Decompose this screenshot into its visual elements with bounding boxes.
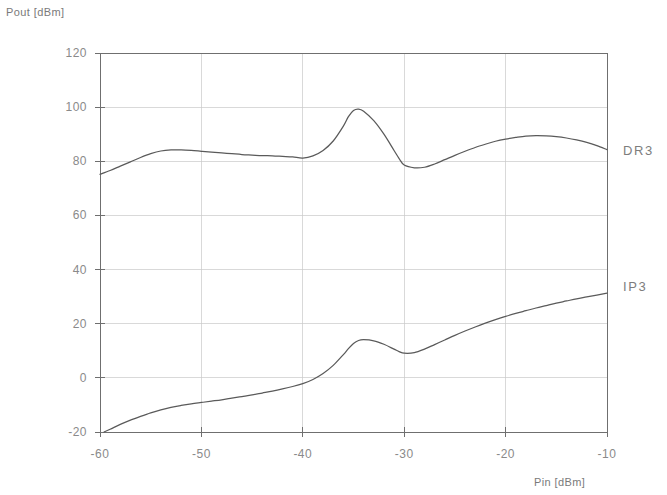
- tick-marks: [95, 53, 607, 437]
- x-axis-title: Pin [dBm]: [534, 476, 585, 488]
- series-labels: DR3IP3: [623, 143, 654, 293]
- y-tick-label: 100: [65, 100, 87, 114]
- x-tick-label: -10: [598, 447, 617, 461]
- y-tick-label: 60: [73, 208, 87, 222]
- y-tick-label: 80: [73, 154, 87, 168]
- x-tick-label: -20: [496, 447, 515, 461]
- y-tick-label: -20: [68, 425, 87, 439]
- series-label-ip3: IP3: [623, 279, 647, 294]
- x-tick-label: -60: [91, 447, 110, 461]
- x-tick-label: -50: [192, 447, 211, 461]
- x-tick-label: -40: [293, 447, 312, 461]
- x-axis-tick-labels: -60-50-40-30-20-10: [91, 447, 617, 461]
- y-tick-label: 40: [73, 263, 87, 277]
- series-label-dr3: DR3: [623, 143, 654, 158]
- x-tick-label: -30: [395, 447, 414, 461]
- data-series: [100, 109, 607, 432]
- series-curve-ip3: [104, 293, 607, 432]
- y-axis-title: Pout [dBm]: [6, 6, 64, 18]
- y-axis-tick-labels: -20020406080100120: [65, 46, 87, 439]
- y-tick-label: 20: [73, 317, 87, 331]
- chart-root: -20020406080100120 -60-50-40-30-20-10 DR…: [0, 0, 667, 495]
- y-tick-label: 0: [80, 371, 87, 385]
- series-curve-dr3: [100, 109, 607, 174]
- ip3-dr3-line-chart: -20020406080100120 -60-50-40-30-20-10 DR…: [0, 0, 667, 495]
- y-tick-label: 120: [65, 46, 87, 60]
